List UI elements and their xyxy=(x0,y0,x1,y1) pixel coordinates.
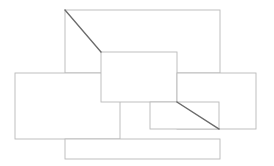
rectangles-group xyxy=(15,10,256,159)
bottom-rectangle xyxy=(65,139,220,159)
figure-canvas xyxy=(0,0,274,166)
center-rectangle xyxy=(101,52,177,102)
figure-svg xyxy=(0,0,274,166)
